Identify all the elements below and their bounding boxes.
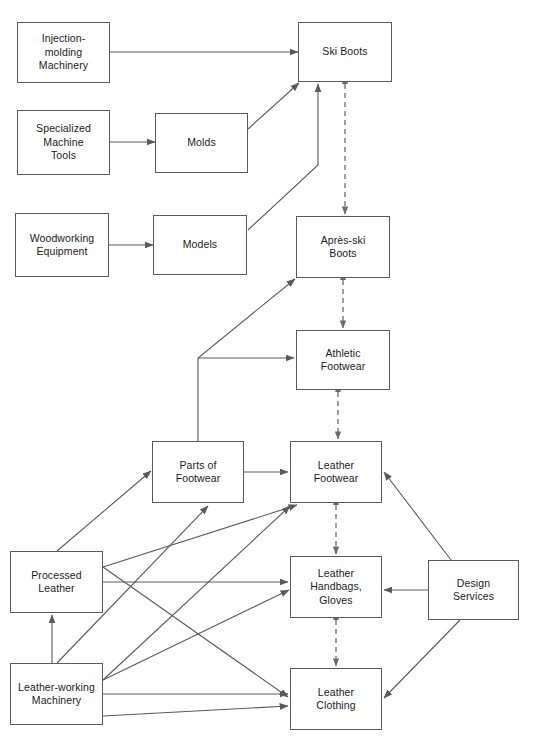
node-lwmachinery[interactable]: Leather-working Machinery <box>10 663 103 725</box>
e-lwmachinery-handbags <box>103 590 289 680</box>
node-label-handbags: Leather Handbags, Gloves <box>307 567 365 608</box>
node-label-lwmachinery: Leather-working Machinery <box>15 681 98 708</box>
node-leatherfoot[interactable]: Leather Footwear <box>290 441 382 503</box>
node-processed[interactable]: Processed Leather <box>10 551 103 613</box>
node-apresski[interactable]: Après-ski Boots <box>296 216 390 278</box>
e-design-clothing <box>384 620 460 698</box>
node-label-athletic: Athletic Footwear <box>318 347 369 374</box>
node-label-models: Models <box>180 238 220 252</box>
e-lwmachinery-leatherfoot <box>103 506 290 680</box>
e-lwmachinery-clothing2 <box>103 706 288 716</box>
node-specialized[interactable]: Specialized Machine Tools <box>17 110 110 175</box>
e-parts-apresski <box>198 279 295 441</box>
node-label-leatherfoot: Leather Footwear <box>311 459 362 486</box>
node-skiboots[interactable]: Ski Boots <box>298 22 392 82</box>
node-molds[interactable]: Molds <box>155 113 248 173</box>
e-models-skiboots <box>248 84 318 230</box>
e-design-leatherfoot <box>384 472 451 560</box>
node-label-skiboots: Ski Boots <box>319 45 370 59</box>
flow-diagram: Injection- molding MachinerySpecialized … <box>0 0 534 743</box>
node-label-specialized: Specialized Machine Tools <box>33 122 94 163</box>
node-injection[interactable]: Injection- molding Machinery <box>17 22 110 83</box>
node-woodworking[interactable]: Woodworking Equipment <box>15 213 109 277</box>
node-label-woodworking: Woodworking Equipment <box>27 232 98 259</box>
node-label-injection: Injection- molding Machinery <box>36 32 91 73</box>
e-processed-parts <box>57 471 151 551</box>
node-label-molds: Molds <box>184 136 219 150</box>
node-models[interactable]: Models <box>153 215 247 275</box>
node-handbags[interactable]: Leather Handbags, Gloves <box>290 556 382 618</box>
node-parts[interactable]: Parts of Footwear <box>152 441 244 503</box>
node-label-clothing: Leather Clothing <box>313 686 358 713</box>
node-label-apresski: Après-ski Boots <box>318 234 369 261</box>
node-design[interactable]: Design Services <box>428 560 519 620</box>
node-label-design: Design Services <box>450 577 497 604</box>
node-label-processed: Processed Leather <box>28 569 85 596</box>
node-clothing[interactable]: Leather Clothing <box>290 668 382 730</box>
node-athletic[interactable]: Athletic Footwear <box>296 330 390 390</box>
node-label-parts: Parts of Footwear <box>173 459 224 486</box>
e-molds-skiboots <box>248 83 299 129</box>
